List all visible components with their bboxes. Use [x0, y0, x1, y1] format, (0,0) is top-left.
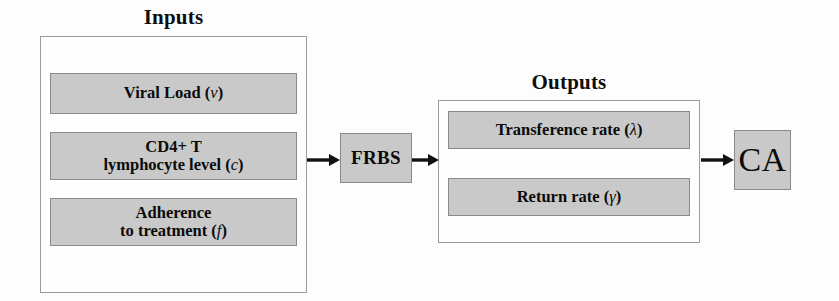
output-label-return-line1: Return rate: [517, 187, 600, 206]
input-box-cd4-t-lymphocyte[interactable]: CD4+ T lymphocyte level (c): [50, 132, 297, 180]
input-label-adherence-line1: Adherence: [120, 204, 227, 222]
input-label-viral-load-line1: Viral Load: [124, 83, 201, 102]
input-label-cd4-line2: lymphocyte level: [103, 155, 221, 174]
outputs-title: Outputs: [438, 72, 700, 93]
input-symbol-viral-load: v: [210, 83, 217, 102]
frbs-label: FRBS: [351, 147, 401, 169]
input-label-adherence-line2: to treatment: [120, 221, 207, 240]
diagram-canvas: Inputs Viral Load (v) CD4+ T lymphocyte …: [0, 0, 839, 301]
output-symbol-transference: λ: [630, 120, 637, 139]
arrow-frbs-to-outputs-icon: [412, 152, 439, 168]
ca-block[interactable]: CA: [734, 130, 791, 190]
output-box-return-rate[interactable]: Return rate (γ): [448, 178, 690, 216]
input-box-viral-load[interactable]: Viral Load (v): [50, 73, 297, 114]
input-symbol-cd4: c: [231, 155, 238, 174]
ca-label: CA: [738, 141, 786, 179]
output-symbol-return: γ: [609, 187, 616, 206]
frbs-block[interactable]: FRBS: [340, 133, 412, 183]
arrow-outputs-to-ca-icon: [701, 152, 734, 168]
output-label-transference-line1: Transference rate: [496, 120, 620, 139]
input-box-adherence[interactable]: Adherence to treatment (f): [50, 198, 297, 246]
input-label-cd4-line1: CD4+ T: [103, 138, 243, 156]
arrow-inputs-to-frbs-icon: [307, 152, 340, 168]
inputs-title: Inputs: [40, 7, 307, 28]
input-symbol-adherence: f: [217, 221, 222, 240]
output-box-transference-rate[interactable]: Transference rate (λ): [448, 111, 690, 149]
